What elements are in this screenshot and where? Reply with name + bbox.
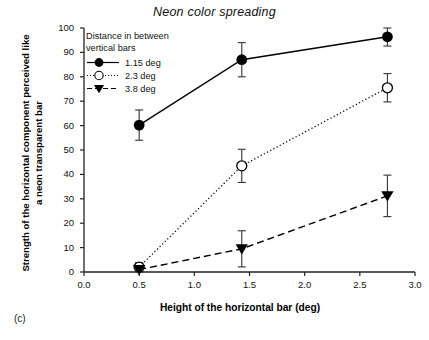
legend-marker-filled-circle-icon xyxy=(86,56,120,69)
legend-item-0: 1.15 deg xyxy=(86,56,169,69)
legend-label-2: 3.8 deg xyxy=(125,83,156,95)
y-tick-label: 70 xyxy=(48,95,74,106)
x-axis-label: Height of the horizontal bar (deg) xyxy=(60,302,420,313)
data-point-2-2 xyxy=(381,191,393,201)
y-tick-label: 20 xyxy=(48,217,74,228)
y-tick-label: 40 xyxy=(48,168,74,179)
y-tick-label: 90 xyxy=(48,46,74,57)
panel-label: (c) xyxy=(14,313,26,324)
x-tick-label: 0.0 xyxy=(67,279,101,290)
chart-legend: Distance in between vertical bars 1.15 d… xyxy=(86,30,169,95)
legend-label-1: 2.3 deg xyxy=(125,70,156,82)
data-point-1-2 xyxy=(382,83,392,93)
figure-panel: Neon color spreading Strength of the hor… xyxy=(0,0,429,340)
legend-item-1: 2.3 deg xyxy=(86,69,169,82)
x-tick-label: 1.5 xyxy=(233,279,267,290)
y-axis-label: Strength of the horizontal component per… xyxy=(19,33,45,273)
y-tick-label: 30 xyxy=(48,193,74,204)
x-tick-label: 0.5 xyxy=(122,279,156,290)
data-point-0-2 xyxy=(382,31,393,42)
series-line-1 xyxy=(139,88,387,267)
y-tick-label: 60 xyxy=(48,120,74,131)
y-tick-label: 80 xyxy=(48,71,74,82)
y-tick-label: 0 xyxy=(48,266,74,277)
legend-item-2: 3.8 deg xyxy=(86,82,169,95)
y-tick-label: 100 xyxy=(48,22,74,33)
legend-title: Distance in between vertical bars xyxy=(86,30,169,54)
data-point-0-1 xyxy=(236,54,247,65)
legend-label-0: 1.15 deg xyxy=(125,57,161,69)
series-line-2 xyxy=(139,196,387,270)
x-tick-label: 2.5 xyxy=(343,279,377,290)
data-point-1-1 xyxy=(237,161,247,171)
y-tick-label: 10 xyxy=(48,242,74,253)
legend-marker-triangle-down-icon xyxy=(86,82,120,95)
series-line-0 xyxy=(139,37,387,125)
data-point-0-0 xyxy=(134,120,145,131)
x-tick-label: 2.0 xyxy=(288,279,322,290)
x-tick-label: 3.0 xyxy=(398,279,429,290)
chart-title: Neon color spreading xyxy=(0,5,429,19)
legend-marker-open-circle-icon xyxy=(86,69,120,82)
x-tick-label: 1.0 xyxy=(177,279,211,290)
y-tick-label: 50 xyxy=(48,144,74,155)
